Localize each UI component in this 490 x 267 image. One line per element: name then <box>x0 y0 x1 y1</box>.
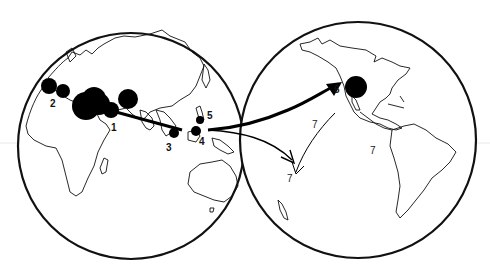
label-site-4: 4 <box>199 136 205 147</box>
label-route-7-a: 7 <box>312 119 318 130</box>
site-4-marker <box>191 126 201 136</box>
label-site-6: 6 <box>334 84 340 95</box>
label-site-1: 1 <box>111 122 117 133</box>
label-route-7-c: 7 <box>370 145 376 156</box>
site-5-marker <box>196 116 204 124</box>
label-site-5: 5 <box>207 110 213 121</box>
site-2b-marker <box>56 84 70 98</box>
eastern-hemisphere-globe <box>18 30 244 259</box>
hemisphere-map-diagram: 1 2 3 4 5 6 7 7 7 <box>0 0 490 267</box>
western-hemisphere-globe <box>240 22 476 258</box>
label-route-7-b: 7 <box>287 173 293 184</box>
label-site-2: 2 <box>50 98 56 109</box>
site-east-marker <box>118 89 138 109</box>
site-2-marker <box>41 78 57 94</box>
site-1-marker <box>103 102 119 118</box>
site-6-marker <box>345 76 367 98</box>
label-site-3: 3 <box>166 142 172 153</box>
globe-outline-east <box>18 33 244 259</box>
site-3-marker <box>169 128 179 138</box>
